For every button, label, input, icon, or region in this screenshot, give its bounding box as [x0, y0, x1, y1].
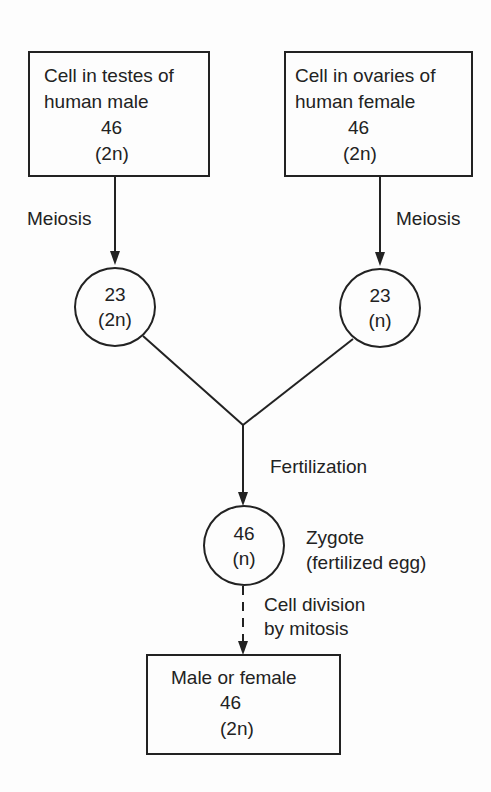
sperm-ploidy: (2n) [98, 307, 132, 332]
sperm-circle: 23 (2n) [74, 267, 156, 347]
offspring-count: 46 [220, 690, 241, 716]
arrowhead-icon [110, 251, 120, 265]
female-cell-count: 46 [348, 115, 369, 141]
offspring-ploidy: (2n) [220, 716, 254, 742]
fertilization-label: Fertilization [270, 455, 367, 479]
offspring-box: Male or female 46 (2n) [146, 654, 341, 755]
offspring-line1: Male or female [171, 665, 297, 691]
arrowhead-icon [238, 641, 248, 655]
male-cell-count: 46 [101, 115, 122, 141]
arrowhead-icon [238, 492, 248, 506]
mitosis-label-line1: Cell division [264, 593, 365, 617]
meiosis-left-label: Meiosis [27, 207, 91, 231]
mitosis-label-line2: by mitosis [264, 617, 348, 641]
female-cell-line1: Cell in ovaries of [295, 63, 435, 89]
egg-circle: 23 (n) [339, 268, 421, 348]
arrowhead-icon [375, 252, 385, 266]
female-cell-ploidy: (2n) [343, 141, 377, 167]
egg-ploidy: (n) [368, 308, 391, 333]
male-cell-ploidy: (2n) [95, 141, 129, 167]
zygote-count: 46 [233, 521, 254, 546]
sperm-count: 23 [104, 282, 125, 307]
male-cell-line1: Cell in testes of [44, 63, 174, 89]
male-cell-line2: human male [44, 89, 149, 115]
female-cell-line2: human female [295, 89, 415, 115]
egg-count: 23 [369, 283, 390, 308]
zygote-label-line1: Zygote [306, 526, 364, 550]
zygote-label-line2: (fertilized egg) [306, 551, 426, 575]
meiosis-right-label: Meiosis [396, 207, 460, 231]
zygote-ploidy: (n) [232, 546, 255, 571]
zygote-circle: 46 (n) [203, 505, 285, 586]
female-cell-box: Cell in ovaries of human female 46 (2n) [284, 51, 473, 177]
male-cell-box: Cell in testes of human male 46 (2n) [28, 51, 210, 177]
